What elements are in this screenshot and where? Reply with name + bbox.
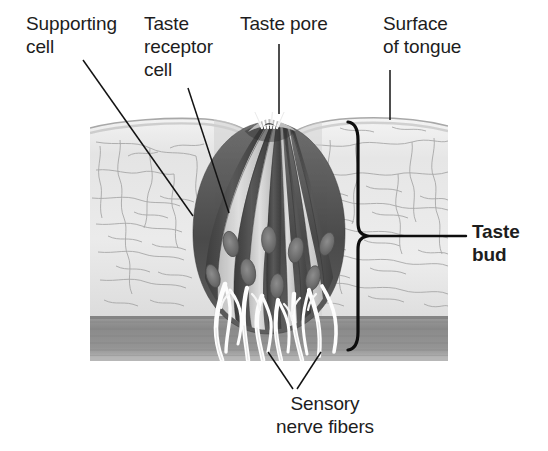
label-taste-pore: Taste pore	[240, 12, 350, 35]
label-supporting-cell: Supporting cell	[26, 12, 146, 58]
taste-bud-illustration	[0, 0, 548, 451]
label-taste-bud: Taste bud	[472, 220, 542, 266]
label-surface-of-tongue: Surface of tongue	[383, 12, 503, 58]
tissue-block	[90, 105, 448, 361]
taste-pore	[248, 105, 296, 132]
label-taste-receptor-cell: Taste receptor cell	[144, 12, 228, 81]
label-sensory-nerve-fibers: Sensory nerve fibers	[225, 392, 425, 438]
